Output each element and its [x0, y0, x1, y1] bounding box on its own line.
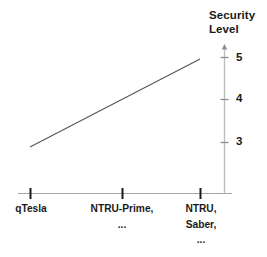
x-category-label-1-line-1: NTRU-Prime,	[72, 201, 172, 217]
x-category-label-2-line-1: NTRU,	[166, 201, 236, 217]
series-line-security-level	[30, 59, 200, 147]
x-category-label-1-line-2: ...	[72, 217, 172, 233]
x-category-label-0-line-1: qTesla	[0, 201, 62, 217]
x-category-label-2-line-2: Saber,	[166, 217, 236, 233]
x-category-label-0: qTesla	[0, 201, 62, 217]
security-level-chart: Security Level 5 4 3 qTesla NTRU-Prime, …	[0, 0, 267, 257]
y-tick-label-3: 3	[236, 135, 256, 147]
y-tick-label-5: 5	[236, 51, 256, 63]
x-category-label-1: NTRU-Prime, ...	[72, 201, 172, 232]
x-category-label-2-line-3: ...	[166, 232, 236, 248]
x-category-label-2: NTRU, Saber, ...	[166, 201, 236, 248]
y-axis-arrow-icon	[222, 44, 227, 50]
y-tick-label-4: 4	[236, 92, 256, 104]
